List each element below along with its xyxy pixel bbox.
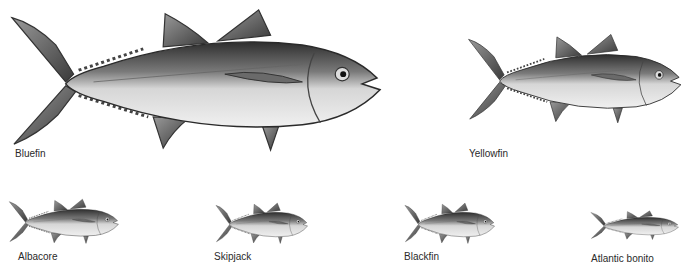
albacore-label: Albacore [18, 251, 57, 262]
yellowfin-tuna-illustration [464, 32, 682, 124]
blackfin-label: Blackfin [404, 251, 439, 262]
atlantic-bonito-illustration [589, 210, 679, 240]
skipjack-tuna-illustration [214, 202, 308, 244]
skipjack-label: Skipjack [214, 251, 251, 262]
albacore-tuna-illustration [7, 198, 119, 244]
yellowfin-label: Yellowfin [469, 148, 508, 159]
bluefin-label: Bluefin [15, 148, 46, 159]
bluefin-tuna-illustration [4, 6, 382, 152]
atlantic-bonito-label: Atlantic bonito [591, 253, 654, 264]
blackfin-tuna-illustration [403, 202, 495, 244]
